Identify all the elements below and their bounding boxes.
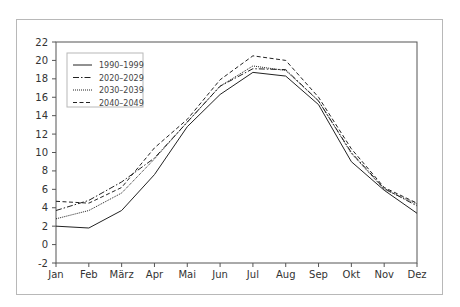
- legend-label: 1990–1999: [99, 61, 144, 70]
- line-chart: -20246810121416182022JanFebMärzAprMaiJun…: [0, 0, 460, 307]
- x-tick-label: Aug: [276, 269, 296, 280]
- x-tick-label: Dez: [407, 269, 426, 280]
- legend: 1990–19992020–20292030–20392040–2049: [67, 53, 144, 108]
- legend-label: 2020–2029: [99, 74, 144, 83]
- y-tick-label: 16: [35, 92, 48, 103]
- y-tick-label: 22: [35, 37, 48, 48]
- y-tick-label: 6: [42, 184, 48, 195]
- x-tick-label: Apr: [146, 269, 164, 280]
- y-tick-label: 2: [42, 221, 48, 232]
- x-tick-label: Okt: [343, 269, 361, 280]
- x-tick-label: Feb: [80, 269, 98, 280]
- x-tick-label: Jul: [246, 269, 259, 280]
- y-tick-label: 18: [35, 73, 48, 84]
- y-tick-label: 12: [35, 129, 48, 140]
- x-tick-label: Jan: [47, 269, 63, 280]
- y-tick-label: -2: [38, 258, 48, 269]
- x-tick-label: Nov: [374, 269, 394, 280]
- x-tick-label: Sep: [309, 269, 328, 280]
- legend-label: 2030–2039: [99, 86, 144, 95]
- y-tick-label: 0: [42, 239, 48, 250]
- y-tick-label: 4: [42, 202, 48, 213]
- x-tick-label: Mai: [178, 269, 196, 280]
- x-tick-label: Jun: [211, 269, 228, 280]
- legend-label: 2040–2049: [99, 99, 144, 108]
- y-tick-label: 14: [35, 110, 48, 121]
- y-tick-label: 20: [35, 55, 48, 66]
- y-tick-label: 10: [35, 147, 48, 158]
- x-tick-label: März: [110, 269, 134, 280]
- y-tick-label: 8: [42, 165, 48, 176]
